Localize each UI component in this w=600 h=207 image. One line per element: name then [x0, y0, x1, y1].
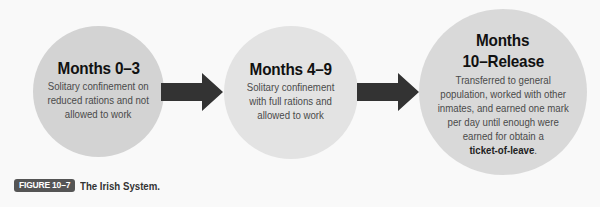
- figure-caption-text: The Irish System.: [80, 180, 160, 192]
- sentence-period: .: [534, 144, 537, 156]
- description-line: with full rations and: [247, 94, 335, 108]
- description-line: Solitary confinement: [247, 80, 335, 94]
- description-line: earned for obtain a: [437, 129, 568, 143]
- stage-description: Transferred to general population, worke…: [437, 73, 568, 157]
- description-line: population, worked with other: [437, 87, 568, 101]
- figure-caption: FIGURE 10–7 The Irish System.: [14, 179, 167, 192]
- description-line: reduced rations and not: [48, 93, 150, 107]
- description-line: Transferred to general: [437, 73, 568, 87]
- stage-circle-months-0-3: Months 0–3 Solitary confinement on reduc…: [33, 26, 164, 157]
- description-line: allowed to work: [247, 108, 335, 122]
- stage-title: Months 4–9: [250, 61, 332, 79]
- figure-number-badge: FIGURE 10–7: [14, 179, 75, 192]
- stage-title-line: 10–Release: [462, 51, 544, 72]
- description-line: per day until enough were: [437, 115, 568, 129]
- stage-circle-months-4-9: Months 4–9 Solitary confinement with ful…: [224, 26, 358, 159]
- irish-system-diagram: Months 0–3 Solitary confinement on reduc…: [0, 0, 600, 207]
- description-line: inmates, and earned one mark: [437, 101, 568, 115]
- stage-title: Months 0–3: [57, 60, 139, 78]
- stage-title-line: Months: [476, 30, 529, 51]
- description-line-final: ticket-of-leave.: [437, 143, 568, 157]
- description-line: Solitary confinement on: [48, 79, 150, 93]
- stage-description: Solitary confinement with full rations a…: [247, 80, 335, 122]
- stage-circle-months-10-release: Months 10–Release Transferred to general…: [419, 9, 587, 175]
- stage-description: Solitary confinement on reduced rations …: [48, 79, 150, 121]
- description-line: allowed to work: [48, 107, 150, 121]
- right-arrow-icon: [357, 73, 419, 111]
- right-arrow-icon: [161, 73, 223, 111]
- key-term-ticket-of-leave: ticket-of-leave: [469, 144, 534, 156]
